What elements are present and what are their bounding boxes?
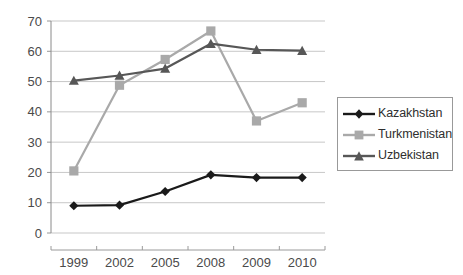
y-axis-tick-label: 50 (28, 74, 42, 89)
data-point-marker (115, 201, 124, 210)
x-axis-tick-label: 2010 (288, 255, 317, 270)
legend-swatch-turkmenistan (342, 128, 376, 142)
legend-label-turkmenistan: Turkmenistan (376, 128, 452, 141)
y-axis-tick-label: 70 (28, 14, 42, 29)
y-axis-tick-label: 40 (28, 104, 42, 119)
data-point-marker (298, 173, 307, 182)
x-axis-tick-label: 2009 (242, 255, 271, 270)
x-axis-tick-label: 1999 (59, 255, 88, 270)
legend-swatch-kazakhstan (342, 107, 376, 121)
data-point-marker (252, 173, 261, 182)
y-axis-tick-label: 20 (28, 165, 42, 180)
data-point-marker (252, 116, 261, 125)
y-axis-tick-label: 10 (28, 195, 42, 210)
y-axis-tick-label: 0 (35, 226, 42, 241)
y-axis-tick-label: 30 (28, 135, 42, 150)
chart-legend: Kazakhstan Turkmenistan Uzbekistan (337, 97, 453, 171)
legend-label-uzbekistan: Uzbekistan (376, 149, 439, 162)
data-point-marker (69, 166, 78, 175)
chart-container: 010203040506070199920022005200820092010 … (0, 0, 463, 275)
data-point-marker (161, 187, 170, 196)
y-axis-tick-label: 60 (28, 44, 42, 59)
data-point-marker (206, 170, 215, 179)
data-point-marker (115, 81, 124, 90)
legend-swatch-uzbekistan (342, 149, 376, 163)
series-line (74, 175, 302, 206)
legend-label-kazakhstan: Kazakhstan (376, 107, 442, 120)
legend-item-turkmenistan[interactable]: Turkmenistan (342, 124, 448, 145)
data-point-marker (298, 98, 307, 107)
legend-item-kazakhstan[interactable]: Kazakhstan (342, 103, 448, 124)
legend-item-uzbekistan[interactable]: Uzbekistan (342, 145, 448, 166)
data-point-marker (206, 26, 215, 35)
x-axis-tick-label: 2002 (105, 255, 134, 270)
x-axis-tick-label: 2005 (151, 255, 180, 270)
series-line (74, 31, 302, 171)
data-point-marker (161, 55, 170, 64)
series-line (74, 44, 302, 81)
x-axis-tick-label: 2008 (196, 255, 225, 270)
